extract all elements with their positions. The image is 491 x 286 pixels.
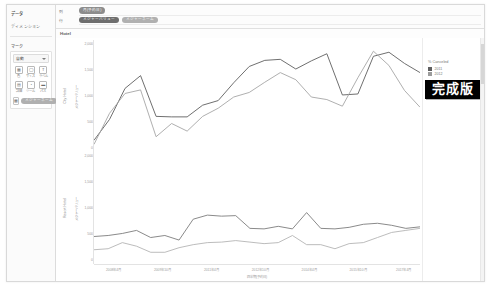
status-badge: 完成版 — [425, 80, 481, 99]
columns-shelf-label: 列 — [59, 9, 75, 14]
line-chart-resort-hotel[interactable] — [94, 152, 420, 264]
chart-svg-upper — [94, 40, 420, 152]
path-icon: ▬ — [39, 81, 47, 89]
data-pane-title: データ — [11, 10, 52, 16]
chevron-down-icon — [42, 58, 46, 60]
rows-shelf-label: 行 — [59, 18, 75, 23]
legend-item-2012[interactable]: 2012 — [428, 72, 480, 76]
marks-item-label: 色 — [17, 75, 20, 78]
series-line-2012-lower — [94, 228, 420, 252]
marks-item-size[interactable]: ◯ サイズ — [25, 66, 36, 78]
worksheet-title: Hotel — [56, 29, 484, 38]
marks-item-label: ラベル — [39, 75, 48, 78]
legend-swatch — [428, 72, 432, 76]
line-chart-city-hotel[interactable] — [94, 40, 420, 152]
vertical-scrollbar[interactable] — [480, 38, 484, 281]
detail-icon: ▤ — [15, 81, 23, 89]
mark-type-select[interactable]: 自動 — [13, 54, 49, 63]
column-pill-date[interactable]: 月(予約日) — [79, 7, 105, 14]
scrollbar-thumb[interactable] — [481, 44, 484, 84]
columns-shelf: 列 月(予約日) — [59, 7, 481, 15]
marks-field-pill[interactable]: メジャーネーム — [21, 98, 57, 105]
tooltip-icon: ◔ — [27, 81, 35, 89]
y-axis-ticks-upper: 2,000 1,500 1,000 500 0 — [80, 40, 94, 152]
legend: % Canceled 2011 2012 — [422, 38, 484, 281]
marks-item-label: サイズ — [26, 75, 35, 78]
legend-item-2011[interactable]: 2011 — [428, 67, 480, 71]
series-line-2011-lower — [94, 213, 420, 240]
viz-canvas: City Hotel メジャーバリュー 2,000 1,500 1,000 50… — [56, 38, 484, 281]
legend-label: 2011 — [435, 67, 443, 71]
x-axis-title: 四半期(予約日) — [94, 274, 420, 279]
plot-area: City Hotel メジャーバリュー 2,000 1,500 1,000 50… — [56, 38, 422, 281]
marks-item-label: ツール — [26, 90, 35, 93]
legend-label: 2012 — [435, 72, 443, 76]
y-axis-ticks-lower: 2,000 1,500 1,000 500 0 — [80, 152, 94, 264]
marks-buttons: ▦ 色 ◯ サイズ T ラベル ▤ 詳細 ◔ ツール — [13, 66, 49, 93]
legend-title: % Canceled — [428, 60, 480, 64]
sidebar-divider — [10, 36, 52, 37]
series-line-2012-upper — [94, 51, 420, 144]
row-header-city-hotel: City Hotel — [58, 40, 72, 152]
x-axis-ticks: 2008年4月 2009年10月 2011年4月 2012年10月 2014年4… — [94, 265, 420, 273]
application-window: データ ディメンション マーク 自動 ▦ 色 ◯ サイズ T ラベル — [6, 4, 485, 282]
marks-item-label[interactable]: T ラベル — [38, 66, 49, 78]
columns-shelf-dropzone[interactable]: 月(予約日) — [79, 7, 481, 16]
y-axis-title-upper: メジャーバリュー — [72, 40, 80, 152]
row-pill-measure-values[interactable]: メジャーバリュー — [79, 17, 119, 24]
marks-item-path[interactable]: ▬ パス — [38, 81, 49, 93]
marks-item-tooltip[interactable]: ◔ ツール — [25, 81, 36, 93]
x-axis: 2008年4月 2009年10月 2011年4月 2012年10月 2014年4… — [94, 264, 420, 281]
marks-card-header: マーク — [11, 43, 52, 49]
marks-item-label: パス — [40, 90, 46, 93]
row-header-resort-hotel: Resort Hotel — [58, 152, 72, 264]
color-icon: ▦ — [15, 66, 23, 74]
shelf-area: 列 月(予約日) 行 メジャーバリュー メジャーネーム — [56, 5, 484, 29]
rows-shelf-dropzone[interactable]: メジャーバリュー メジャーネーム — [79, 16, 481, 25]
marks-pill-row: ▦ メジャーネーム — [13, 97, 49, 105]
text-icon: T — [39, 66, 47, 74]
legend-swatch — [428, 67, 432, 71]
marks-item-color[interactable]: ▦ 色 — [13, 66, 24, 78]
dimensions-header: ディメンション — [11, 23, 52, 29]
chart-svg-lower — [94, 152, 420, 264]
panel-resort-hotel: Resort Hotel メジャーバリュー 2,000 1,500 1,000 … — [58, 152, 420, 264]
sidebar: データ ディメンション マーク 自動 ▦ 色 ◯ サイズ T ラベル — [7, 5, 56, 281]
size-icon: ◯ — [27, 66, 35, 74]
row-pill-measure-names[interactable]: メジャーネーム — [122, 17, 158, 24]
color-swatch-icon[interactable]: ▦ — [13, 97, 19, 105]
rows-shelf: 行 メジャーバリュー メジャーネーム — [59, 17, 481, 25]
mark-type-value: 自動 — [16, 56, 24, 61]
y-axis-title-lower: メジャーバリュー — [72, 152, 80, 264]
marks-item-label: 詳細 — [16, 90, 22, 93]
main-area: 列 月(予約日) 行 メジャーバリュー メジャーネーム Hotel City — [56, 5, 484, 281]
marks-item-detail[interactable]: ▤ 詳細 — [13, 81, 24, 93]
marks-card: 自動 ▦ 色 ◯ サイズ T ラベル ▤ 詳細 — [10, 51, 52, 109]
panel-city-hotel: City Hotel メジャーバリュー 2,000 1,500 1,000 50… — [58, 40, 420, 152]
